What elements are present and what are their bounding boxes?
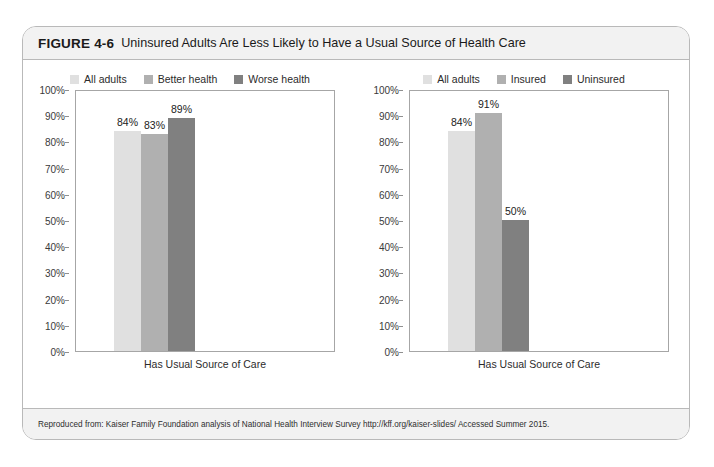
y-axis-tick-mark (399, 247, 403, 248)
x-axis-label-right: Has Usual Source of Care (409, 358, 669, 370)
y-axis-tick-label: 60% (45, 189, 65, 200)
bar[interactable]: 83% (141, 134, 168, 351)
legend-entry[interactable]: Insured (497, 73, 546, 85)
figure-header: FIGURE 4-6 Uninsured Adults Are Less Lik… (23, 27, 689, 60)
chart-panel-right: All adultsInsuredUninsured 0%10%20%30%40… (357, 60, 690, 408)
y-axis-tick-label: 80% (379, 137, 399, 148)
chart-legend-right: All adultsInsuredUninsured (357, 73, 690, 85)
y-axis-tick-mark (65, 352, 69, 353)
y-axis-tick-label: 70% (45, 163, 65, 174)
y-axis-tick-mark (65, 300, 69, 301)
bar[interactable]: 84% (114, 131, 141, 351)
y-axis-tick-label: 70% (379, 163, 399, 174)
bar-value-label: 84% (451, 116, 472, 128)
legend-swatch-icon (423, 75, 432, 84)
figure-card: FIGURE 4-6 Uninsured Adults Are Less Lik… (22, 26, 690, 440)
plot-wrapper-right: 0%10%20%30%40%50%60%70%80%90%100% 84%91%… (357, 90, 690, 380)
y-axis-tick-mark (399, 326, 403, 327)
figure-body: All adultsBetter healthWorse health 0%10… (23, 60, 689, 408)
y-axis-tick-mark (399, 195, 403, 196)
y-axis-tick-label: 20% (45, 294, 65, 305)
y-axis-tick-mark (65, 247, 69, 248)
y-axis-tick-label: 30% (45, 268, 65, 279)
y-axis-tick-mark (65, 273, 69, 274)
legend-entry[interactable]: Uninsured (563, 73, 625, 85)
bar-value-label: 84% (117, 116, 138, 128)
legend-swatch-icon (563, 75, 572, 84)
y-axis-tick-mark (399, 90, 403, 91)
y-axis-tick-label: 10% (45, 320, 65, 331)
y-axis-tick-label: 100% (39, 85, 65, 96)
y-axis-tick-mark (399, 273, 403, 274)
y-axis-tick-mark (65, 169, 69, 170)
y-axis-right: 0%10%20%30%40%50%60%70%80%90%100% (357, 90, 403, 352)
bar[interactable]: 89% (168, 118, 195, 351)
bar-group-right: 84%91%50% (448, 91, 529, 351)
x-axis-label-left: Has Usual Source of Care (75, 358, 335, 370)
y-axis-tick-mark (65, 195, 69, 196)
bar-group-left: 84%83%89% (114, 91, 195, 351)
y-axis-tick-mark (65, 90, 69, 91)
legend-label: All adults (437, 73, 480, 85)
bar[interactable]: 84% (448, 131, 475, 351)
chart-panel-left: All adultsBetter healthWorse health 0%10… (23, 60, 357, 408)
y-axis-tick-mark (65, 116, 69, 117)
y-axis-tick-label: 50% (379, 216, 399, 227)
y-axis-tick-label: 80% (45, 137, 65, 148)
y-axis-tick-label: 40% (45, 242, 65, 253)
legend-swatch-icon (234, 75, 243, 84)
y-axis-tick-label: 0% (51, 347, 65, 358)
legend-label: Uninsured (577, 73, 625, 85)
y-axis-tick-mark (65, 221, 69, 222)
y-axis-tick-label: 90% (379, 111, 399, 122)
y-axis-tick-label: 90% (45, 111, 65, 122)
legend-label: All adults (84, 73, 127, 85)
y-axis-tick-mark (65, 326, 69, 327)
y-axis-tick-label: 100% (373, 85, 399, 96)
legend-swatch-icon (144, 75, 153, 84)
legend-label: Worse health (248, 73, 310, 85)
bar-value-label: 89% (171, 103, 192, 115)
y-axis-tick-mark (399, 221, 403, 222)
plot-wrapper-left: 0%10%20%30%40%50%60%70%80%90%100% 84%83%… (23, 90, 357, 380)
y-axis-tick-label: 30% (379, 268, 399, 279)
y-axis-tick-label: 0% (385, 347, 399, 358)
legend-label: Insured (511, 73, 546, 85)
legend-swatch-icon (497, 75, 506, 84)
y-axis-tick-mark (399, 300, 403, 301)
y-axis-tick-label: 10% (379, 320, 399, 331)
y-axis-tick-mark (399, 352, 403, 353)
source-citation: Reproduced from: Kaiser Family Foundatio… (38, 420, 549, 429)
figure-number: FIGURE 4-6 (38, 36, 114, 51)
legend-entry[interactable]: Better health (144, 73, 218, 85)
y-axis-tick-mark (399, 169, 403, 170)
legend-swatch-icon (70, 75, 79, 84)
legend-label: Better health (158, 73, 218, 85)
bar-value-label: 91% (478, 98, 499, 110)
bar-value-label: 83% (144, 119, 165, 131)
bar[interactable]: 91% (475, 113, 502, 351)
plot-area-left: 84%83%89% (75, 90, 335, 352)
chart-legend-left: All adultsBetter healthWorse health (23, 73, 357, 85)
y-axis-tick-label: 50% (45, 216, 65, 227)
figure-title: Uninsured Adults Are Less Likely to Have… (121, 36, 526, 50)
y-axis-tick-mark (65, 142, 69, 143)
y-axis-tick-label: 60% (379, 189, 399, 200)
legend-entry[interactable]: All adults (70, 73, 127, 85)
legend-entry[interactable]: Worse health (234, 73, 310, 85)
bar-value-label: 50% (505, 205, 526, 217)
y-axis-tick-mark (399, 116, 403, 117)
legend-entry[interactable]: All adults (423, 73, 480, 85)
plot-area-right: 84%91%50% (409, 90, 669, 352)
y-axis-left: 0%10%20%30%40%50%60%70%80%90%100% (23, 90, 69, 352)
y-axis-tick-label: 40% (379, 242, 399, 253)
figure-footer: Reproduced from: Kaiser Family Foundatio… (23, 408, 689, 440)
bar[interactable]: 50% (502, 220, 529, 351)
y-axis-tick-mark (399, 142, 403, 143)
y-axis-tick-label: 20% (379, 294, 399, 305)
